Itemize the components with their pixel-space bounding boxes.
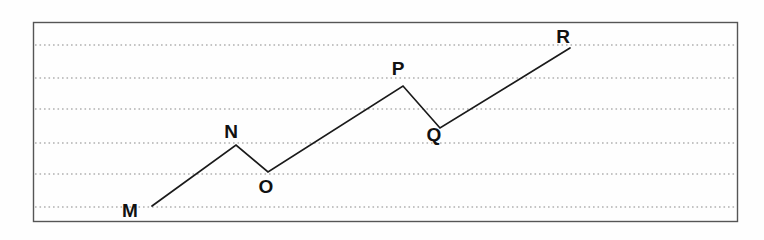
vertex-label-n: N [224,121,238,142]
zigzag-line-graph: M N O P Q R [0,0,764,240]
figure-background [0,0,764,240]
vertex-label-q: Q [427,124,442,145]
vertex-label-p: P [392,58,405,79]
figure-container: M N O P Q R [0,0,764,240]
vertex-label-m: M [122,200,138,221]
vertex-label-r: R [556,26,570,47]
vertex-label-o: O [259,176,274,197]
